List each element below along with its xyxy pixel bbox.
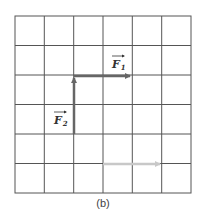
f1-label: F1 <box>111 55 126 73</box>
grid <box>15 16 191 193</box>
vector-diagram: F1 F2 (b) <box>0 0 203 223</box>
svg-text:F1: F1 <box>111 58 126 72</box>
figure-caption: (b) <box>96 197 109 209</box>
f2-label: F2 <box>53 111 68 129</box>
svg-text:F2: F2 <box>53 114 68 128</box>
